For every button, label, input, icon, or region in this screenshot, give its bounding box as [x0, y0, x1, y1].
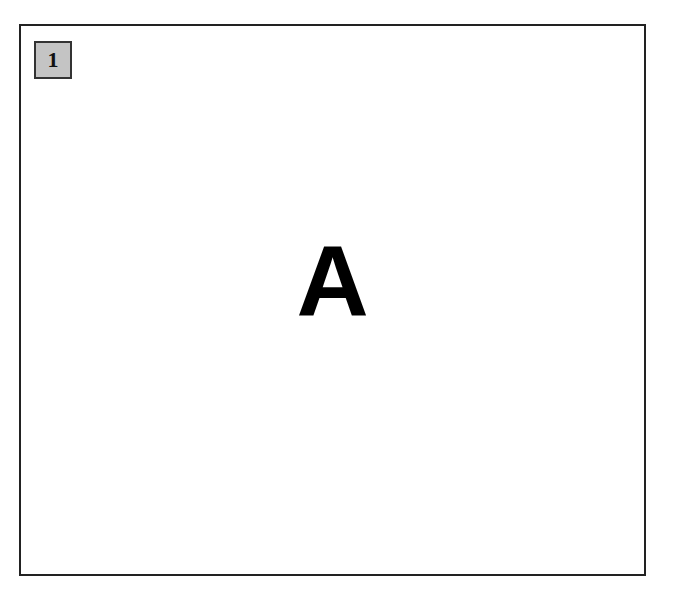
panel-letter: A — [21, 231, 644, 331]
panel-frame: 1 A — [19, 24, 646, 576]
panel-number-badge: 1 — [34, 41, 72, 79]
